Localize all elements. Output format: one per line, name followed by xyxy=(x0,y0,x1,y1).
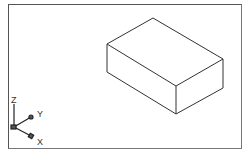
box-edge-top-front-right xyxy=(176,59,223,86)
model-space-canvas[interactable]: Z Y X xyxy=(0,0,245,153)
isometric-box[interactable] xyxy=(107,18,223,114)
box-edge-top-front-left xyxy=(107,44,176,86)
box-edge-bottom-left xyxy=(107,72,176,114)
ucs-z-label: Z xyxy=(11,95,17,105)
ucs-x-arrow-icon xyxy=(28,133,33,138)
ucs-y-arrow-icon xyxy=(29,115,33,119)
ucs-icon xyxy=(11,104,34,139)
box-edge-top-back-right xyxy=(153,18,223,59)
box-edge-top-back-left xyxy=(107,18,153,44)
box-edge-bottom-right xyxy=(176,88,223,114)
ucs-x-label: X xyxy=(37,137,43,147)
ucs-origin-icon xyxy=(11,125,16,129)
ucs-y-label: Y xyxy=(37,109,43,119)
